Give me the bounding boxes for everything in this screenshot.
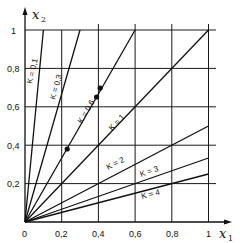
y-tick-0.6: 0,6 [7, 102, 20, 112]
x-tick-0: 0 [22, 229, 27, 239]
svg-text:x: x [219, 226, 227, 241]
x-tick-0.8: 0,8 [166, 229, 179, 239]
svg-text:2: 2 [41, 15, 46, 24]
data-point [94, 94, 99, 99]
y-axis-arrow-icon [23, 7, 28, 15]
label-k-0.1: K = 0,1 [25, 57, 40, 84]
k-labels: K = 0,1 K = 0,3 K = 0,6 K = 1 K = 2 K = … [25, 57, 161, 201]
x-axis-arrow-icon [224, 220, 232, 225]
x-axis-title: x 1 [219, 226, 233, 243]
y-tick-0.8: 0,8 [7, 64, 20, 74]
data-point [65, 146, 70, 151]
label-k-2: K = 2 [105, 155, 126, 172]
svg-text:1: 1 [228, 234, 233, 243]
line-k-4 [25, 174, 209, 222]
x-tick-0.2: 0,2 [55, 229, 68, 239]
data-point [98, 85, 103, 90]
y-tick-0.4: 0,4 [7, 141, 20, 151]
y-tick-labels: 0,2 0,4 0,6 0,8 1 [7, 26, 20, 189]
x-tick-0.6: 0,6 [129, 229, 142, 239]
y-axis-title: x 2 [32, 7, 46, 24]
y-tick-0.2: 0,2 [7, 179, 20, 189]
x-tick-labels: 0 0,2 0,4 0,6 0,8 1 [22, 229, 211, 239]
x-tick-0.4: 0,4 [92, 229, 105, 239]
label-k-4: K = 4 [140, 188, 161, 201]
y-tick-1: 1 [11, 26, 16, 36]
label-k-1: K = 1 [107, 112, 127, 132]
x-tick-1: 1 [206, 229, 211, 239]
label-k-0.6: K = 0,6 [76, 98, 97, 125]
k-line-diagram: K = 0,1 K = 0,3 K = 0,6 K = 1 K = 2 K = … [0, 0, 240, 243]
svg-text:x: x [32, 7, 40, 22]
